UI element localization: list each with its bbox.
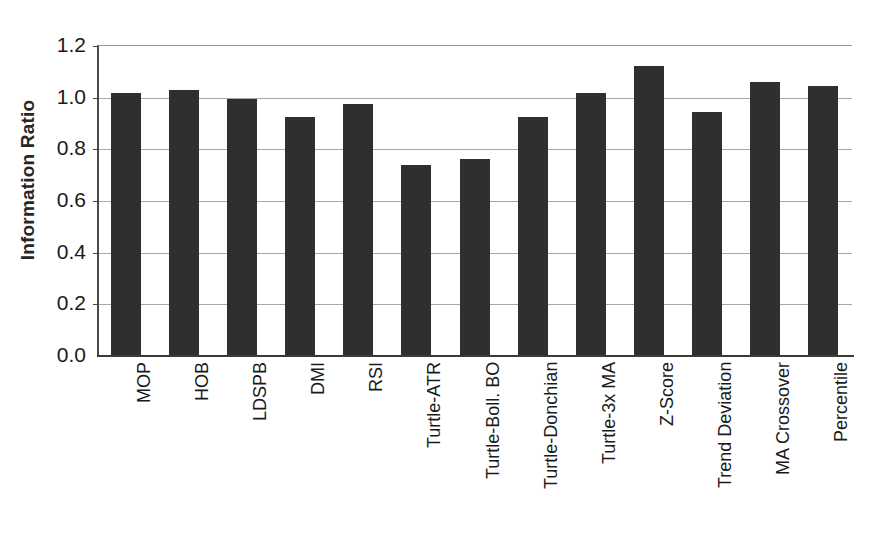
bars-layer <box>97 45 852 355</box>
x-axis-tick-label: DMI <box>308 362 329 395</box>
y-axis-tick-labels: 0.00.20.40.60.81.01.2 <box>40 0 92 538</box>
bar <box>576 93 606 355</box>
bar <box>692 112 722 355</box>
x-axis-tick-label: Turtle-Boll. BO <box>483 362 504 479</box>
bar <box>227 99 257 355</box>
y-axis-tick-label: 1.2 <box>57 33 86 57</box>
y-axis-tick-label: 0.2 <box>57 291 86 315</box>
x-axis-tick-label: RSI <box>366 362 387 392</box>
bar <box>169 90 199 355</box>
x-axis-tick-label: Turtle-3x MA <box>599 362 620 464</box>
x-axis-tick-labels: MOPHOBLDSPBDMIRSITurtle-ATRTurtle-Boll. … <box>97 358 852 538</box>
bar <box>634 66 664 355</box>
bar-chart-figure: Information Ratio 0.00.20.40.60.81.01.2 … <box>0 0 874 538</box>
bar <box>111 93 141 355</box>
bar <box>460 159 490 355</box>
x-axis-tick-label: Trend Deviation <box>715 362 736 488</box>
x-axis-line <box>97 355 854 357</box>
bar <box>401 165 431 355</box>
y-axis-title-label: Information Ratio <box>17 100 39 261</box>
y-axis-tick-label: 1.0 <box>57 85 86 109</box>
bar <box>518 117 548 355</box>
x-axis-tick-label: Z-Score <box>657 362 678 426</box>
x-axis-tick-label: Turtle-Donchian <box>541 362 562 489</box>
bar <box>750 82 780 355</box>
bar <box>808 86 838 355</box>
x-axis-tick-label: LDSPB <box>250 362 271 421</box>
y-axis-tick-label: 0.4 <box>57 240 86 264</box>
x-axis-tick-label: Turtle-ATR <box>424 362 445 448</box>
bar <box>285 117 315 355</box>
y-axis-tick-label: 0.0 <box>57 343 86 367</box>
y-axis-tick-label: 0.6 <box>57 188 86 212</box>
y-axis-tick-label: 0.8 <box>57 136 86 160</box>
x-axis-tick-label: HOB <box>192 362 213 401</box>
x-axis-tick-label: MOP <box>134 362 155 403</box>
x-axis-tick-label: MA Crossover <box>773 362 794 475</box>
x-axis-tick-label: Percentile <box>831 362 852 442</box>
bar <box>343 104 373 355</box>
